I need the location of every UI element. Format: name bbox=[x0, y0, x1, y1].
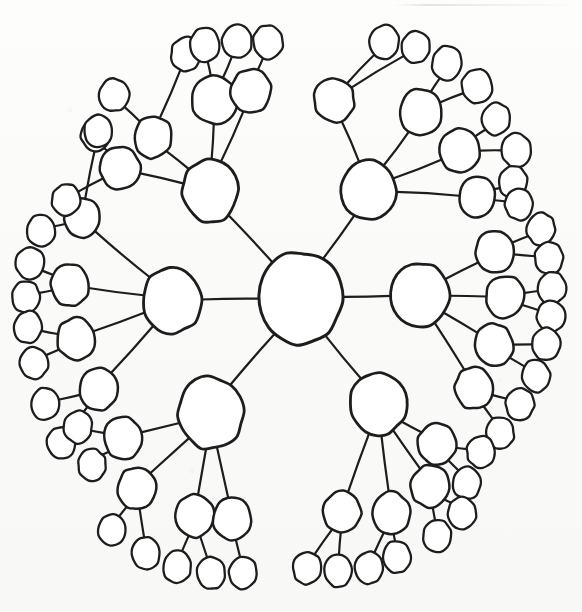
graph-edge bbox=[475, 130, 486, 137]
graph-edge bbox=[150, 438, 189, 473]
graph-edge bbox=[160, 70, 181, 118]
graph-edge bbox=[384, 131, 410, 165]
graph-edge bbox=[322, 215, 354, 260]
graph-node bbox=[462, 69, 493, 103]
graph-edge bbox=[325, 335, 362, 380]
graph-edge bbox=[141, 423, 180, 433]
graph-node bbox=[104, 417, 142, 460]
graph-node bbox=[213, 497, 251, 540]
graph-node bbox=[58, 317, 95, 361]
graph-edge bbox=[522, 305, 538, 310]
graph-node bbox=[175, 494, 214, 538]
graph-node bbox=[99, 78, 130, 111]
graph-node bbox=[369, 25, 399, 59]
graph-edge bbox=[78, 179, 103, 192]
graph-edge bbox=[339, 533, 341, 555]
graph-edge bbox=[342, 296, 392, 297]
graph-edge bbox=[42, 271, 53, 275]
graph-node bbox=[78, 449, 105, 482]
graph-node bbox=[12, 282, 40, 313]
graph-node bbox=[535, 242, 564, 274]
graph-node bbox=[486, 277, 524, 319]
graph-edge bbox=[431, 78, 440, 92]
graph-edge bbox=[314, 530, 332, 555]
graph-node bbox=[448, 497, 477, 530]
graph-node bbox=[16, 247, 45, 279]
graph-node bbox=[467, 436, 495, 468]
graph-edge bbox=[440, 93, 464, 102]
graph-edge bbox=[512, 236, 529, 243]
graph-edge bbox=[393, 430, 420, 469]
graph-edge bbox=[54, 224, 65, 226]
graph-edge bbox=[223, 57, 232, 78]
graph-edge bbox=[523, 291, 538, 293]
graph-node bbox=[52, 184, 81, 216]
radial-tree-graph bbox=[0, 0, 582, 612]
graph-node-root bbox=[259, 253, 343, 346]
graph-edge bbox=[182, 536, 189, 552]
graph-node bbox=[229, 557, 257, 590]
graph-edge bbox=[89, 288, 144, 295]
graph-edge bbox=[140, 509, 145, 538]
graph-edge bbox=[201, 299, 259, 300]
graph-edge bbox=[347, 55, 374, 84]
graph-edge bbox=[236, 539, 240, 557]
graph-node bbox=[536, 301, 565, 333]
graph-edge bbox=[93, 312, 145, 331]
graph-node bbox=[98, 514, 126, 545]
graph-edge bbox=[445, 262, 479, 279]
graph-edge bbox=[198, 448, 206, 495]
graph-node bbox=[475, 231, 513, 272]
graph-edge bbox=[167, 151, 190, 170]
graph-edge bbox=[95, 231, 151, 278]
graph-edge bbox=[396, 192, 460, 196]
graph-edge bbox=[509, 357, 525, 366]
graph-node bbox=[324, 555, 352, 588]
graph-edge bbox=[228, 214, 273, 263]
graph-edge bbox=[449, 296, 487, 297]
graph-node bbox=[538, 272, 567, 304]
graph-node bbox=[80, 368, 118, 411]
graph-node bbox=[222, 24, 252, 57]
graph-edge bbox=[381, 434, 388, 492]
graph-edge bbox=[217, 448, 228, 499]
graph-node-hub bbox=[178, 376, 245, 449]
graph-node bbox=[505, 388, 534, 420]
graph-edge bbox=[444, 313, 479, 334]
graph-edge bbox=[401, 421, 421, 432]
graph-node bbox=[314, 78, 354, 122]
graph-edge bbox=[341, 120, 359, 162]
graph-node bbox=[31, 388, 59, 420]
graph-edge bbox=[111, 325, 154, 373]
graph-node-hub bbox=[144, 267, 202, 334]
graph-edge bbox=[208, 62, 211, 77]
graph-node bbox=[84, 115, 111, 148]
graph-node bbox=[293, 552, 321, 585]
graph-node bbox=[253, 25, 283, 59]
graph-node bbox=[482, 102, 510, 135]
graph-edge bbox=[483, 406, 493, 419]
graph-node-hub bbox=[341, 160, 397, 220]
graph-edge bbox=[200, 536, 207, 558]
graph-node bbox=[230, 69, 271, 112]
graph-node bbox=[453, 466, 481, 498]
graph-edge bbox=[85, 147, 95, 199]
graph-edge bbox=[46, 349, 60, 355]
graph-node bbox=[135, 117, 172, 159]
graph-node bbox=[14, 311, 42, 344]
graph-node bbox=[163, 550, 190, 583]
graph-node bbox=[19, 347, 48, 380]
graph-node bbox=[197, 557, 225, 589]
graph-node bbox=[475, 323, 514, 366]
graph-node bbox=[383, 541, 411, 572]
graph-node bbox=[51, 264, 89, 305]
graph-node bbox=[132, 537, 160, 569]
graph-edge bbox=[394, 160, 442, 179]
graph-edge bbox=[230, 334, 274, 385]
graph-edge bbox=[39, 290, 51, 292]
graph-node bbox=[439, 128, 479, 172]
graph-node bbox=[27, 215, 55, 247]
graph-edge bbox=[374, 532, 384, 553]
graph-edge bbox=[448, 460, 458, 470]
graph-node bbox=[526, 212, 555, 245]
